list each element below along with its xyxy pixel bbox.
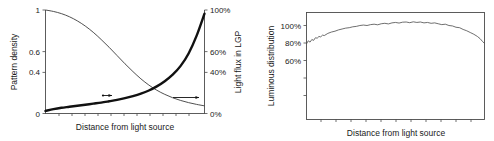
left-right-y-tick-label-60: 60% — [210, 48, 226, 57]
right-chart-svg: 100% 80% 60% Luminous distribution Dista… — [250, 0, 494, 141]
left-chart-svg: 1 0.6 0.4 0 100% 60% 40% 0% Pattern dens… — [0, 0, 250, 141]
right-y-tick-label-100: 100% — [281, 22, 301, 31]
left-x-axis-title: Distance from light source — [76, 122, 175, 132]
left-right-y-tick-label-40: 40% — [210, 68, 226, 77]
left-y-tick-label-0-6: 0.6 — [29, 48, 41, 57]
light-flux-arrow — [173, 96, 199, 99]
pattern-density-curve — [46, 14, 205, 111]
chart-panel-right: 100% 80% 60% Luminous distribution Dista… — [250, 0, 494, 141]
right-y-tick-label-60: 60% — [285, 57, 301, 66]
left-right-y-tick-label-0: 0% — [210, 110, 222, 119]
right-y-axis-title: Luminous distribution — [266, 26, 276, 107]
left-y-axis-title: Pattern density — [9, 33, 19, 90]
light-flux-curve — [46, 10, 205, 106]
right-y-tick-label-80: 80% — [285, 39, 301, 48]
left-right-y-tick-label-100: 100% — [210, 6, 230, 15]
figure-container: 1 0.6 0.4 0 100% 60% 40% 0% Pattern dens… — [0, 0, 494, 141]
right-y-tick-marks — [304, 26, 307, 96]
luminous-distribution-curve — [307, 22, 485, 44]
pattern-density-arrow — [102, 94, 112, 97]
left-y-tick-label-1: 1 — [36, 6, 41, 15]
right-x-axis-title: Distance from light source — [347, 128, 446, 138]
right-plot-frame — [307, 13, 485, 120]
left-right-y-axis-title: Light flux in LGP — [233, 30, 243, 93]
left-y-tick-label-0-4: 0.4 — [29, 68, 41, 77]
left-y-tick-label-0: 0 — [36, 110, 41, 119]
chart-panel-left: 1 0.6 0.4 0 100% 60% 40% 0% Pattern dens… — [0, 0, 250, 141]
